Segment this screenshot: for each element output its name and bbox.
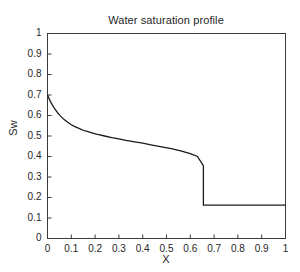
x-tick-label: 0.5 <box>154 243 180 254</box>
y-tick-label: 0.8 <box>16 68 42 79</box>
y-tick-label: 0.7 <box>16 89 42 100</box>
x-tick-label: 0 <box>35 243 61 254</box>
x-tick-label: 0.4 <box>130 243 156 254</box>
y-tick-label: 0.2 <box>16 191 42 202</box>
y-tick-label: 0.4 <box>16 150 42 161</box>
x-tick-label: 0.3 <box>106 243 132 254</box>
plot-frame <box>48 34 286 239</box>
x-tick-label: 0.2 <box>82 243 108 254</box>
axes-frame <box>48 34 286 239</box>
x-tick-label: 0.9 <box>249 243 275 254</box>
plot-canvas <box>0 0 300 272</box>
y-tick-label: 0.6 <box>16 109 42 120</box>
x-tick-label: 0.6 <box>177 243 203 254</box>
y-tick-label: 0.1 <box>16 212 42 223</box>
y-tick-label: 1 <box>16 27 42 38</box>
x-tick-label: 1 <box>273 243 299 254</box>
y-tick-label: 0 <box>16 232 42 243</box>
chart-figure: Water saturation profile Sw X 00.10.20.3… <box>0 0 300 272</box>
y-tick-label: 0.9 <box>16 48 42 59</box>
y-tick-label: 0.5 <box>16 130 42 141</box>
axis-ticks <box>48 34 286 239</box>
x-tick-label: 0.7 <box>201 243 227 254</box>
data-series-group <box>48 95 286 205</box>
x-tick-label: 0.1 <box>58 243 84 254</box>
x-tick-label: 0.8 <box>225 243 251 254</box>
saturation-profile-line <box>48 95 286 205</box>
y-tick-label: 0.3 <box>16 171 42 182</box>
